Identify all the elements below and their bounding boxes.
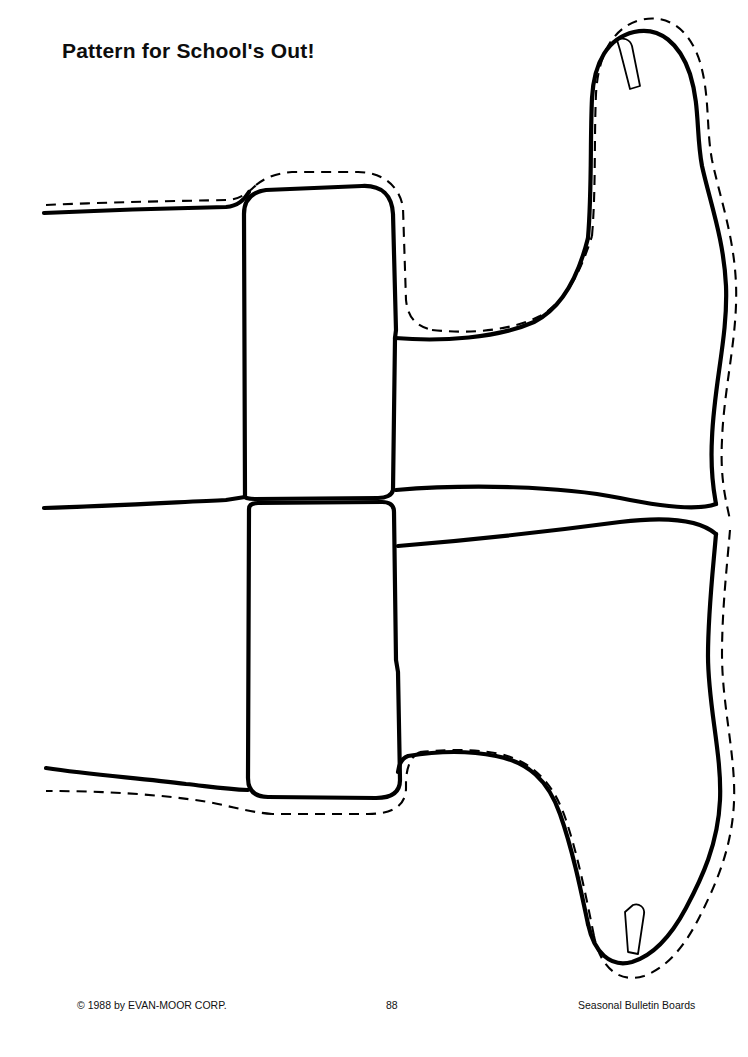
bow-waist-upper-cut-line [396,487,716,508]
footer-copyright: © 1988 by EVAN-MOOR CORP. [77,999,227,1011]
lower-left-streamer-cut-line [46,768,248,790]
center-streamer-divider-cut-line [44,497,245,508]
upper-right-loop-inner-seam-line [432,236,592,332]
upper-fold-tab-cut-line [617,39,640,89]
center-knot-upper-seam-line [256,172,432,330]
lower-fold-tab-cut-line [625,904,644,954]
upper-right-loop-inner-cut-line [395,238,588,339]
bow-pattern-artwork [0,0,748,1057]
upper-left-streamer-cut-line [44,192,249,213]
footer-page-number: 88 [386,999,398,1011]
upper-right-loop-outer-cut-line [588,31,726,504]
upper-right-loop-outer-seam-line [592,18,736,520]
lower-right-loop-inner-cut-line [398,752,588,924]
pattern-page: Pattern for School's Out! [0,0,748,1057]
center-knot-upper-cut-line [244,186,396,499]
lower-right-loop-outer-cut-line [588,534,720,963]
lower-left-streamer-seam-line [46,791,272,814]
footer-series-title: Seasonal Bulletin Boards [578,999,695,1011]
lower-right-loop-outer-seam-line [594,530,734,978]
bow-waist-lower-cut-line [398,519,716,546]
center-knot-lower-cut-line [248,502,400,798]
upper-left-streamer-seam-line [46,185,256,205]
